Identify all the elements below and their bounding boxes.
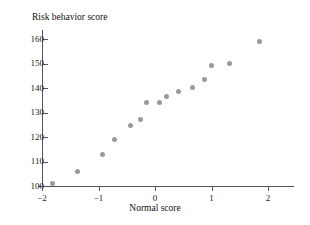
data-point	[75, 169, 80, 174]
data-point	[50, 181, 55, 186]
x-tick	[42, 186, 43, 191]
data-point	[202, 77, 207, 82]
data-point	[157, 100, 162, 105]
data-point	[138, 117, 143, 122]
data-point	[209, 63, 214, 68]
data-point	[112, 137, 117, 142]
x-axis-title: Normal score	[0, 203, 310, 213]
x-axis-line	[38, 186, 294, 187]
y-axis-title: Risk behavior score	[32, 12, 107, 22]
y-tick-label: 130	[31, 108, 45, 117]
y-tick-label: 120	[31, 133, 45, 142]
x-tick-label: −2	[30, 194, 54, 203]
y-tick-label: 110	[31, 157, 44, 166]
x-tick-label: −1	[87, 194, 111, 203]
data-point	[100, 152, 105, 157]
x-tick	[155, 186, 156, 191]
scatter-plot: Risk behavior score 10011012013014015016…	[0, 0, 310, 225]
x-tick-label: 1	[200, 194, 224, 203]
data-point	[257, 39, 262, 44]
data-point	[190, 85, 195, 90]
x-tick	[99, 186, 100, 191]
chart-screenshot: Risk behavior score 10011012013014015016…	[0, 0, 310, 225]
data-point	[128, 123, 133, 128]
x-tick	[268, 186, 269, 191]
data-point	[164, 94, 169, 99]
data-point	[144, 100, 149, 105]
y-tick-label: 140	[31, 84, 45, 93]
y-tick-label: 160	[31, 35, 45, 44]
y-tick-label: 150	[31, 59, 45, 68]
data-point	[227, 61, 232, 66]
data-point	[176, 89, 181, 94]
x-tick-label: 2	[256, 194, 280, 203]
x-tick	[212, 186, 213, 191]
x-tick-label: 0	[143, 194, 167, 203]
